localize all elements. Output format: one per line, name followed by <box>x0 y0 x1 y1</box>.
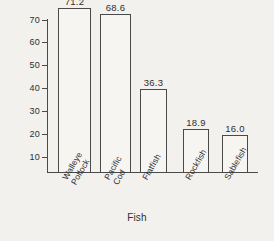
bar-value-pacific-cod: 68.6 <box>100 3 131 13</box>
y-tick-label-10: 10 <box>20 153 40 162</box>
y-tick-10 <box>42 157 48 158</box>
y-tick-30 <box>42 111 48 112</box>
y-tick-label-30: 30 <box>20 107 40 116</box>
x-axis-title: Fish <box>0 212 274 223</box>
y-tick-label-50: 50 <box>20 61 40 70</box>
y-tick-label-60: 60 <box>20 38 40 47</box>
y-tick-label-20: 20 <box>20 130 40 139</box>
y-tick-20 <box>42 134 48 135</box>
bar-value-flatfish: 36.3 <box>139 78 168 88</box>
y-tick-70 <box>42 20 48 21</box>
bar-value-sablefish: 16.0 <box>221 124 249 134</box>
bar-pacific-cod <box>100 14 131 172</box>
y-tick-60 <box>42 42 48 43</box>
bar-chart: 70 60 50 40 30 20 10 71.2 68.6 36.3 18.9… <box>0 0 274 241</box>
y-tick-label-70: 70 <box>20 16 40 25</box>
y-tick-label-40: 40 <box>20 84 40 93</box>
y-tick-40 <box>42 88 48 89</box>
bar-value-walleye-pollock: 71.2 <box>58 0 91 7</box>
y-tick-50 <box>42 65 48 66</box>
bar-walleye-pollock <box>58 8 91 172</box>
bar-value-rockfish: 18.9 <box>182 118 210 128</box>
